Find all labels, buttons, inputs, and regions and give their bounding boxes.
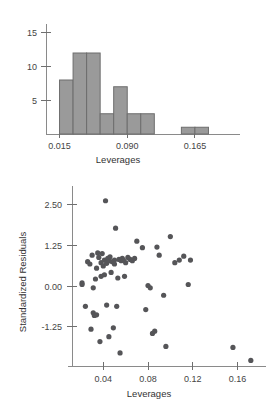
scatter-point	[172, 260, 177, 265]
histogram-y-tick-label: 5	[32, 96, 37, 106]
scatter-point	[154, 244, 159, 249]
scatter-point	[109, 270, 114, 275]
histogram-bar	[87, 53, 101, 134]
scatter-point	[112, 261, 117, 266]
scatter-point	[134, 239, 139, 244]
histogram-bar	[195, 127, 209, 134]
scatter-point	[157, 253, 162, 258]
scatter-point	[79, 282, 84, 287]
scatter-x-tick-label: 0.16	[229, 374, 247, 384]
scatter-point	[113, 226, 118, 231]
scatter-y-axis-title: Standardized Residuals	[17, 232, 28, 333]
scatter-point	[104, 302, 109, 307]
histogram-bar	[100, 114, 114, 134]
scatter-x-tick-label: 0.08	[139, 374, 157, 384]
scatter-point	[107, 254, 112, 259]
scatter-point	[102, 272, 107, 277]
scatter-point	[111, 325, 116, 330]
scatter-point	[163, 344, 168, 349]
scatter-y-tick-label: 1.25	[44, 241, 62, 251]
scatter-point	[114, 304, 119, 309]
scatter-point	[248, 358, 253, 363]
scatter-x-tick-label: 0.12	[184, 374, 202, 384]
scatter-point	[188, 257, 193, 262]
scatter-point	[97, 339, 102, 344]
scatter-point	[168, 234, 173, 239]
residuals-vs-leverages-scatter: 2.501.250.00-1.250.040.080.120.16Leverag…	[17, 186, 266, 399]
scatter-point	[186, 282, 191, 287]
scatter-point	[94, 312, 99, 317]
scatter-point	[140, 245, 145, 250]
scatter-point	[181, 254, 186, 259]
histogram-x-tick-label: 0.015	[48, 141, 71, 151]
histogram-x-tick-label: 0.090	[116, 141, 139, 151]
scatter-point	[87, 261, 92, 266]
scatter-point	[103, 198, 108, 203]
scatter-y-tick-label: 0.00	[44, 282, 62, 292]
scatter-x-axis-title: Leverages	[127, 388, 172, 399]
histogram-bar	[114, 87, 128, 134]
scatter-point	[143, 307, 148, 312]
histogram-bar	[127, 114, 141, 134]
scatter-point	[122, 274, 127, 279]
scatter-point	[132, 256, 137, 261]
scatter-point	[106, 334, 111, 339]
scatter-x-tick-label: 0.04	[95, 374, 113, 384]
scatter-point	[88, 327, 93, 332]
scatter-point	[91, 285, 96, 290]
histogram-bar	[141, 114, 155, 134]
scatter-point	[152, 329, 157, 334]
scatter-point	[161, 293, 166, 298]
scatter-point	[95, 250, 100, 255]
scatter-point	[123, 260, 128, 265]
scatter-point	[115, 275, 120, 280]
histogram-y-tick-label: 10	[27, 62, 37, 72]
scatter-point	[148, 285, 153, 290]
scatter-point	[117, 350, 122, 355]
histogram-y-tick-label: 15	[27, 28, 37, 38]
scatter-point	[83, 304, 88, 309]
scatter-point	[230, 345, 235, 350]
scatter-y-tick-label: -1.25	[41, 322, 62, 332]
scatter-y-tick-label: 2.50	[44, 200, 62, 210]
statistical-figure-panel: 510150.0150.0900.165Leverages 2.501.250.…	[0, 0, 270, 417]
scatter-point	[100, 251, 105, 256]
figure-canvas: 510150.0150.0900.165Leverages 2.501.250.…	[0, 0, 270, 417]
scatter-point	[90, 253, 95, 258]
scatter-point	[93, 276, 98, 281]
histogram-bar	[181, 127, 195, 134]
scatter-point	[94, 266, 99, 271]
histogram-x-tick-label: 0.165	[184, 141, 207, 151]
histogram-bar	[73, 53, 87, 134]
scatter-point	[177, 257, 182, 262]
histogram-x-axis-title: Leverages	[96, 154, 141, 165]
histogram-bar	[60, 80, 74, 134]
leverages-histogram: 510150.0150.0900.165Leverages	[27, 24, 240, 165]
